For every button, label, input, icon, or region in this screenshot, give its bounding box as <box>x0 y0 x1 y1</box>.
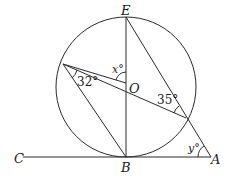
geometry-diagram: E O B A C x° 32° 35° y° <box>0 0 231 181</box>
label-b: B <box>120 160 131 175</box>
label-c: C <box>14 151 24 166</box>
angle-label-32: 32° <box>77 75 98 89</box>
label-e: E <box>120 3 131 18</box>
angle-label-35: 35° <box>157 93 178 107</box>
angle-label-y: y° <box>187 142 200 155</box>
label-a: A <box>210 152 220 167</box>
angle-arc-35 <box>174 106 179 113</box>
label-o: O <box>129 81 140 96</box>
angle-label-x: x° <box>112 63 124 76</box>
